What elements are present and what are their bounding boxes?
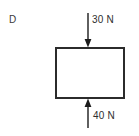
bottom-force-label: 40 N (93, 110, 115, 121)
body-rectangle (56, 48, 124, 98)
bottom-force-arrowhead (85, 99, 92, 108)
top-force-arrowhead (85, 39, 92, 48)
free-body-diagram: D 30 N 40 N (0, 0, 139, 136)
diagram-canvas (0, 0, 139, 136)
top-force-label: 30 N (92, 14, 114, 25)
